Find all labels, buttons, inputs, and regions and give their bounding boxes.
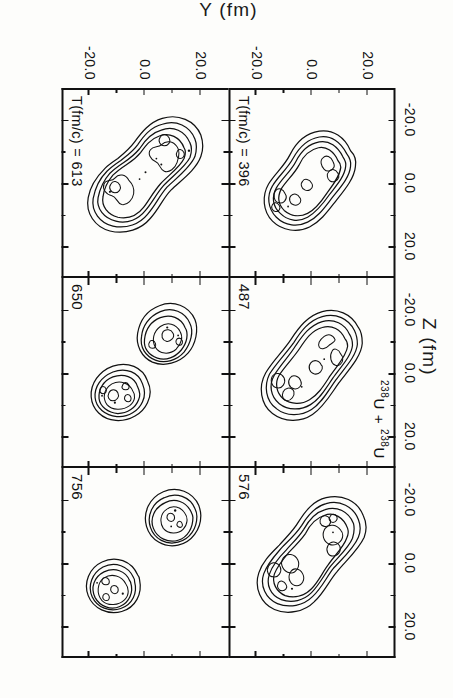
y-tick-label: 20.0 [359,51,375,80]
axis-tick [199,651,201,658]
panel-label-613: T(fm/c) = 613 [68,96,84,187]
y-tick-label: 20.0 [192,51,208,80]
x-tick-label: 0.0 [401,173,417,194]
axis-tick [61,373,68,375]
panel-576: 576 [228,468,395,658]
axis-tick [254,88,256,95]
axis-tick [391,405,396,407]
x-axis-title: Z (fm) [417,318,439,376]
axis-tick [221,310,235,312]
contour-plot-487 [230,278,393,466]
axis-tick [224,215,233,217]
x-tick-label: 20.0 [401,612,417,641]
axis-tick [143,88,145,95]
rotated-figure-container: Z (fm) Y (fm) T(fm/c) = 396 [0,0,453,698]
axis-tick [282,274,284,283]
x-tick-label: -20.0 [401,293,417,327]
axis-tick [388,310,395,312]
axis-tick [388,563,395,565]
axis-tick [171,88,173,93]
system-label: 238U + 238U [370,380,389,459]
axis-tick [254,271,256,285]
axis-tick [61,595,66,597]
axis-tick [388,120,395,122]
panel-613: T(fm/c) = 613 [61,88,228,278]
axis-tick [115,654,117,659]
axis-tick [61,531,66,533]
panel-label-650: 650 [68,284,85,310]
axis-tick [61,626,68,628]
axis-tick [199,461,201,475]
axis-tick [366,461,368,475]
axis-tick [115,88,117,93]
axis-tick [224,151,233,153]
axis-tick [61,215,66,217]
axis-tick [115,274,117,283]
system-mass-1: 238 [378,380,389,398]
axis-tick [391,341,396,343]
y-tick-label: 0.0 [137,59,153,80]
axis-tick [224,405,233,407]
axis-tick [254,461,256,475]
axis-tick [221,183,235,185]
axis-tick [388,500,395,502]
axis-tick [221,563,235,565]
system-mass-2: 238 [378,429,389,447]
axis-tick [61,405,66,407]
axis-tick [338,88,340,93]
axis-tick [61,246,68,248]
axis-tick [391,151,396,153]
axis-tick [388,436,395,438]
x-tick-label: 0.0 [401,553,417,574]
y-tick-label: -20.0 [248,46,264,80]
contour-plot-613 [63,90,228,276]
axis-tick [391,215,396,217]
axis-tick [61,120,68,122]
axis-tick [366,651,368,658]
axis-tick [366,88,368,95]
axis-tick [282,88,284,93]
axis-tick [87,651,89,658]
axis-tick [143,271,145,285]
panel-650: 650 [61,278,228,468]
axis-tick [388,246,395,248]
axis-tick [87,271,89,285]
axis-tick [310,651,312,658]
axis-tick [338,464,340,473]
axis-tick [310,271,312,285]
contour-plot-756 [63,468,228,656]
panel-756: 756 [61,468,228,658]
axis-tick [338,654,340,659]
axis-tick [366,271,368,285]
contour-plot-650 [63,278,228,466]
axis-tick [171,464,173,473]
axis-tick [221,626,235,628]
system-element-2: U [371,447,388,459]
axis-tick [388,373,395,375]
axis-tick [391,595,396,597]
panel-396: T(fm/c) = 396 [228,88,395,278]
panel-grid: T(fm/c) = 396 487 2 [61,88,395,658]
x-tick-label: -20.0 [401,103,417,137]
x-tick-label: -20.0 [401,483,417,517]
axis-tick [87,88,89,95]
axis-tick [338,274,340,283]
axis-tick [388,183,395,185]
axis-tick [199,271,201,285]
axis-tick [221,373,235,375]
y-tick-label: 0.0 [304,59,320,80]
axis-tick [61,563,68,565]
panel-label-396: T(fm/c) = 396 [235,96,251,187]
panel-label-487: 487 [235,284,252,310]
axis-tick [221,436,235,438]
axis-tick [224,341,233,343]
axis-tick [254,651,256,658]
axis-tick [61,500,68,502]
axis-tick [221,120,235,122]
axis-tick [282,654,284,659]
x-tick-label: 20.0 [401,422,417,451]
axis-tick [61,151,66,153]
axis-tick [310,88,312,95]
panel-label-576: 576 [235,474,252,500]
axis-tick [171,274,173,283]
